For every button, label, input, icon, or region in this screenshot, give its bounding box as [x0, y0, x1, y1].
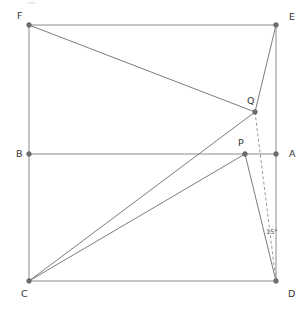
angle-label-15: 15° [266, 228, 278, 236]
scan-artifact [28, 2, 35, 4]
vertex-dot-A [274, 152, 279, 157]
angle-annotations: 15° [266, 228, 278, 236]
vertex-label-Q: Q [247, 95, 254, 106]
vertex-dot-Q [253, 110, 258, 115]
vertex-dot-C [27, 279, 32, 284]
vertex-dot-B [27, 152, 32, 157]
segment-EQ [255, 25, 276, 112]
segment-QD-dashed [255, 112, 276, 281]
vertex-label-B: B [16, 148, 23, 159]
segment-FQ [29, 25, 255, 112]
geometry-diagram: F E B A C D Q P 15° [0, 0, 306, 310]
vertex-dot-F [27, 23, 32, 28]
vertex-label-C: C [21, 288, 28, 299]
vertex-dot-E [274, 23, 279, 28]
vertex-dots [27, 23, 279, 284]
vertex-label-F: F [17, 10, 22, 21]
vertex-dot-D [274, 279, 279, 284]
vertex-label-P: P [238, 137, 244, 148]
construction-lines [29, 25, 276, 281]
geometry-figure-svg: F E B A C D Q P 15° [0, 0, 306, 310]
vertex-label-A: A [289, 148, 296, 159]
vertex-label-D: D [288, 288, 295, 299]
vertex-label-E: E [289, 11, 295, 22]
segment-CQ [29, 112, 255, 281]
vertex-dot-P [243, 152, 248, 157]
rectangle-edges [29, 25, 276, 281]
segment-PD [245, 154, 276, 281]
segment-CP [29, 154, 245, 281]
